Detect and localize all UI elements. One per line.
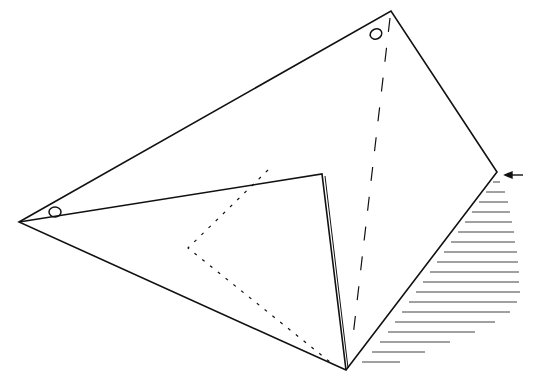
outer-outline: [19, 11, 497, 370]
arrow-left-icon: [505, 172, 523, 178]
origami-diagram: [0, 0, 541, 386]
